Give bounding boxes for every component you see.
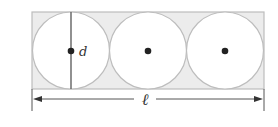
center-dot-3 (222, 48, 229, 55)
center-dot-1 (68, 48, 75, 55)
center-dot-2 (145, 48, 152, 55)
arrowhead-right-icon (254, 96, 263, 102)
length-label: ℓ (142, 90, 149, 109)
arrowhead-left-icon (33, 96, 42, 102)
circles-in-rectangle-diagram: d ℓ (0, 0, 278, 127)
diameter-label: d (79, 44, 87, 59)
